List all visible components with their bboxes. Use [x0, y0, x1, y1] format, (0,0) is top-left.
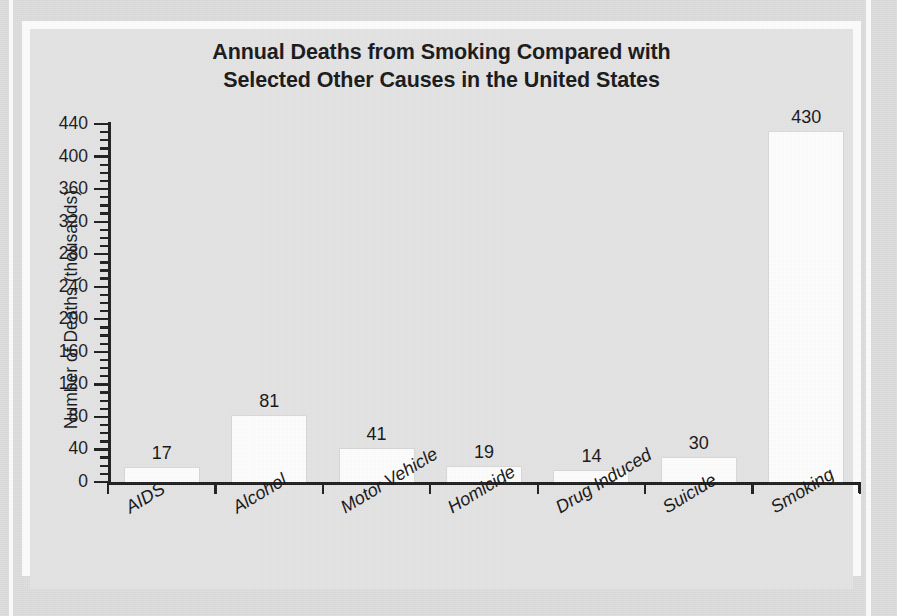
y-tick-minor — [100, 139, 110, 141]
y-tick-minor — [100, 408, 110, 410]
figure-frame-left — [22, 21, 30, 576]
y-tick-major — [94, 155, 110, 157]
y-tick-minor — [100, 164, 110, 166]
y-tick-minor — [100, 310, 110, 312]
y-tick-label: 120 — [26, 373, 88, 394]
y-tick-label: 440 — [26, 113, 88, 134]
y-tick-minor — [100, 375, 110, 377]
y-tick-major — [94, 286, 110, 288]
y-tick-label: 200 — [26, 308, 88, 329]
y-tick-minor — [100, 212, 110, 214]
y-tick-minor — [100, 261, 110, 263]
y-tick-major — [94, 253, 110, 255]
y-tick-minor — [100, 172, 110, 174]
y-tick-label: 360 — [26, 178, 88, 199]
bar-value-label: 19 — [444, 442, 524, 463]
plot-area: Number of Deaths (thousands) 04080120160… — [30, 29, 853, 589]
y-tick-minor — [100, 465, 110, 467]
y-tick-label: 280 — [26, 243, 88, 264]
y-tick-minor — [100, 334, 110, 336]
y-tick-minor — [100, 367, 110, 369]
y-tick-minor — [100, 180, 110, 182]
x-tick — [644, 482, 646, 494]
y-tick-minor — [100, 131, 110, 133]
y-tick-minor — [100, 277, 110, 279]
bar-value-label: 430 — [766, 107, 846, 128]
x-tick — [751, 482, 753, 494]
y-tick-minor — [100, 147, 110, 149]
x-tick — [859, 482, 861, 494]
bar-value-label: 81 — [229, 391, 309, 412]
y-tick-minor — [100, 245, 110, 247]
bar — [769, 132, 843, 482]
y-tick-major — [94, 351, 110, 353]
y-tick-minor — [100, 391, 110, 393]
y-tick-minor — [100, 302, 110, 304]
y-tick-minor — [100, 229, 110, 231]
bar-value-label: 30 — [659, 433, 739, 454]
page-gutter-right — [866, 0, 871, 616]
y-tick-minor — [100, 343, 110, 345]
y-tick-minor — [100, 359, 110, 361]
y-tick-label: 400 — [26, 146, 88, 167]
y-tick-major — [94, 448, 110, 450]
y-tick-major — [94, 318, 110, 320]
y-tick-label: 320 — [26, 211, 88, 232]
y-tick-major — [94, 383, 110, 385]
x-tick — [429, 482, 431, 494]
y-tick-label: 240 — [26, 276, 88, 297]
bar — [125, 468, 199, 482]
y-tick-minor — [100, 432, 110, 434]
y-tick-major — [94, 123, 110, 125]
y-tick-major — [94, 221, 110, 223]
x-tick — [107, 482, 109, 494]
y-tick-minor — [100, 326, 110, 328]
y-tick-minor — [100, 424, 110, 426]
x-tick — [214, 482, 216, 494]
y-tick-minor — [100, 473, 110, 475]
y-tick-minor — [100, 204, 110, 206]
y-tick-minor — [100, 237, 110, 239]
x-tick — [537, 482, 539, 494]
bar-value-label: 17 — [122, 443, 202, 464]
y-tick-minor — [100, 440, 110, 442]
y-tick-minor — [100, 196, 110, 198]
y-tick-major — [94, 188, 110, 190]
page-gutter-left — [9, 0, 13, 616]
y-tick-minor — [100, 294, 110, 296]
y-tick-label: 160 — [26, 341, 88, 362]
scanned-page: Annual Deaths from Smoking Compared with… — [0, 0, 897, 616]
y-tick-label: 0 — [26, 471, 88, 492]
y-tick-minor — [100, 269, 110, 271]
y-tick-label: 40 — [26, 438, 88, 459]
chart-figure: Annual Deaths from Smoking Compared with… — [30, 29, 853, 589]
x-tick — [322, 482, 324, 494]
figure-frame-top — [22, 21, 861, 29]
bar — [232, 416, 306, 482]
y-tick-label: 80 — [26, 406, 88, 427]
y-tick-major — [94, 416, 110, 418]
bar-value-label: 41 — [337, 424, 417, 445]
y-tick-minor — [100, 400, 110, 402]
y-tick-minor — [100, 456, 110, 458]
